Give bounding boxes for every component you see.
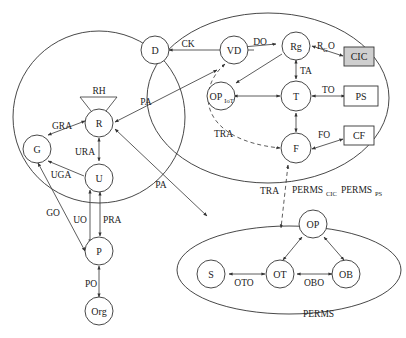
label-fo: FO	[318, 130, 330, 140]
node-f[interactable]: F	[281, 133, 311, 163]
svg-text:OP: OP	[307, 219, 320, 230]
node-d[interactable]: D	[141, 36, 169, 64]
edge-fo	[312, 139, 343, 149]
label-pa-lower: PA	[155, 180, 166, 190]
edge-ot-op	[283, 237, 302, 260]
label-go: GO	[46, 208, 60, 218]
node-ob[interactable]: OB	[332, 260, 360, 288]
label-ta: TA	[300, 66, 312, 76]
svg-text:P: P	[96, 246, 102, 257]
svg-text:CIC: CIC	[351, 51, 368, 62]
edge-tra-lower	[281, 165, 288, 228]
node-ot[interactable]: OT	[266, 260, 294, 288]
svg-text:PS: PS	[375, 190, 383, 197]
svg-text:Rg: Rg	[290, 41, 302, 52]
label-rh: RH	[92, 86, 105, 96]
access-control-diagram: D VD Rg CIC OP IoT T PS F CF R G	[0, 0, 406, 338]
node-cic[interactable]: CIC	[344, 47, 374, 66]
node-op-iot[interactable]: OP IoT	[207, 82, 235, 110]
node-op[interactable]: OP	[299, 210, 327, 238]
svg-text:OT: OT	[273, 269, 286, 280]
label-tra-upper: TRA	[214, 129, 233, 139]
label-obo: OBO	[304, 278, 324, 288]
label-uo: UO	[73, 215, 87, 225]
label-pra: PRA	[103, 215, 122, 225]
label-tra-lower: TRA	[260, 186, 279, 196]
svg-text:D: D	[151, 45, 158, 56]
svg-text:S: S	[208, 269, 214, 280]
node-r[interactable]: R	[85, 109, 113, 137]
svg-text:G: G	[33, 144, 40, 155]
label-perms-ps: PERMS PS	[341, 185, 383, 197]
svg-text:Org: Org	[91, 306, 106, 317]
label-do: DO	[253, 37, 267, 47]
svg-text:OB: OB	[339, 269, 353, 280]
node-p[interactable]: P	[85, 237, 113, 265]
label-perms-cic: PERMS CIC	[292, 185, 337, 197]
svg-text:IoT: IoT	[224, 97, 233, 104]
svg-text:T: T	[293, 91, 299, 102]
edge-op-ob	[324, 237, 344, 260]
label-perms: PERMS	[303, 309, 334, 319]
node-vd[interactable]: VD	[220, 36, 248, 64]
node-rg[interactable]: Rg	[282, 32, 310, 60]
node-g[interactable]: G	[23, 135, 51, 163]
edge-pa-lower	[115, 129, 207, 216]
label-ura: URA	[75, 147, 95, 157]
label-gra: GRA	[52, 121, 72, 131]
svg-text:U: U	[95, 173, 103, 184]
node-s[interactable]: S	[197, 260, 225, 288]
svg-text:CIC: CIC	[326, 190, 337, 197]
label-uga: UGA	[51, 170, 72, 180]
svg-text:R: R	[96, 118, 103, 129]
svg-text:PERMS: PERMS	[292, 185, 323, 195]
svg-text:OP: OP	[210, 91, 223, 102]
label-to: TO	[322, 85, 335, 95]
label-oto: OTO	[234, 278, 253, 288]
edge-pa-upper	[115, 70, 217, 122]
label-po: PO	[85, 279, 97, 289]
svg-text:PERMS: PERMS	[341, 185, 372, 195]
svg-text:CF: CF	[353, 130, 366, 141]
node-org[interactable]: Org	[85, 297, 113, 325]
svg-text:F: F	[293, 143, 299, 154]
svg-text:VD: VD	[227, 45, 241, 56]
svg-text:O: O	[328, 41, 335, 51]
label-pa-upper: PA	[140, 97, 151, 107]
node-u[interactable]: U	[85, 164, 113, 192]
node-t[interactable]: T	[281, 81, 311, 111]
node-cf[interactable]: CF	[344, 126, 374, 145]
svg-text:PS: PS	[355, 91, 366, 102]
node-ps[interactable]: PS	[344, 86, 378, 106]
label-rgo: R G O	[317, 41, 335, 53]
label-ck: CK	[181, 39, 194, 49]
